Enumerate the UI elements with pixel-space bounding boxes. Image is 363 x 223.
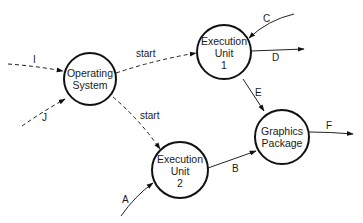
data-flow-diagram: I J start start C D E A B F Operating bbox=[0, 0, 363, 223]
edge-label-j: J bbox=[42, 112, 47, 123]
edge-label-b: B bbox=[232, 163, 239, 174]
node-label-line: Execution bbox=[201, 35, 247, 47]
edge-a: A bbox=[121, 183, 153, 216]
node-execution-unit-2: Execution Unit 2 bbox=[152, 142, 208, 198]
node-label-line: System bbox=[72, 79, 107, 91]
edge-label-c: C bbox=[263, 13, 270, 24]
edge-b: B bbox=[208, 151, 256, 174]
node-operating-system: Operating System bbox=[64, 53, 116, 105]
edge-label-start-1: start bbox=[136, 48, 156, 59]
edge-label-e: E bbox=[255, 87, 262, 98]
edge-f: F bbox=[309, 120, 353, 134]
node-label-line: Package bbox=[262, 137, 303, 149]
edge-label-a: A bbox=[122, 194, 129, 205]
node-label-line: 2 bbox=[177, 177, 183, 189]
edge-start-eu1: start bbox=[116, 48, 196, 73]
node-label-line: Operating bbox=[67, 67, 113, 79]
edge-label-start-2: start bbox=[140, 110, 160, 121]
edge-c: C bbox=[249, 13, 294, 38]
node-label-line: Graphics bbox=[261, 125, 303, 137]
edge-j: J bbox=[22, 99, 65, 126]
node-label-line: 1 bbox=[221, 59, 227, 71]
node-execution-unit-1: Execution Unit 1 bbox=[197, 25, 251, 79]
node-label-line: Unit bbox=[215, 47, 234, 59]
node-label-line: Execution bbox=[157, 153, 203, 165]
edge-e: E bbox=[243, 79, 264, 111]
edge-start-eu2: start bbox=[113, 97, 160, 149]
edge-d: D bbox=[251, 49, 304, 63]
edge-i: I bbox=[8, 54, 63, 71]
edge-label-d: D bbox=[272, 52, 279, 63]
edge-label-f: F bbox=[326, 120, 332, 131]
node-label-line: Unit bbox=[171, 165, 190, 177]
node-graphics-package: Graphics Package bbox=[255, 110, 309, 164]
edge-label-i: I bbox=[33, 54, 36, 65]
